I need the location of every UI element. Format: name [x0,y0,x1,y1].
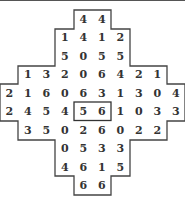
grid-cell: 4 [93,10,112,29]
grid-cell: 1 [93,29,112,48]
grid-cell: 2 [56,66,75,85]
grid-cell: 6 [93,66,112,85]
grid-cell: 0 [56,121,75,140]
grid-cell: 1 [111,103,130,122]
grid-cell: 3 [148,103,167,122]
grid-cell: 6 [74,158,93,177]
grid-cell: 6 [93,177,112,196]
grid-cell: 4 [56,158,75,177]
grid-cell: 5 [56,47,75,66]
grid-cell: 6 [93,103,112,122]
grid-cell: 2 [0,84,19,103]
grid-cell: 6 [93,121,112,140]
grid-cell: 1 [19,66,38,85]
grid-cell: 1 [93,158,112,177]
grid-cell: 1 [19,84,38,103]
grid-cell: 0 [111,121,130,140]
grid-cell: 3 [19,121,38,140]
grid-cell: 6 [74,177,93,196]
grid-cell: 0 [130,103,149,122]
grid-cell: 0 [56,140,75,159]
grid-cell: 6 [37,84,56,103]
grid-cell: 3 [93,140,112,159]
grid-cell: 5 [74,103,93,122]
grid-cell: 0 [56,84,75,103]
grid-cell: 4 [19,103,38,122]
grid-cell: 5 [111,47,130,66]
grid-cell: 4 [167,84,186,103]
grid-cell: 4 [74,10,93,29]
grid-cell: 2 [111,29,130,48]
grid-cell: 0 [74,47,93,66]
grid-cell: 5 [93,47,112,66]
grid-cell: 3 [93,84,112,103]
grid-cell: 6 [74,84,93,103]
grid-cell: 3 [111,140,130,159]
grid-cell: 2 [0,103,19,122]
grid-cell: 4 [74,29,93,48]
grid-cell: 5 [111,158,130,177]
grid-cell: 5 [37,121,56,140]
grid-cell: 2 [148,121,167,140]
grid-cell: 0 [74,66,93,85]
grid-cell: 5 [37,103,56,122]
grid-cell: 5 [74,140,93,159]
grid-cell: 1 [56,29,75,48]
grid-cell: 0 [148,84,167,103]
grid-cell: 2 [74,121,93,140]
grid-cell: 3 [167,103,186,122]
grid-cell: 3 [130,84,149,103]
grid-cell: 2 [130,66,149,85]
grid-cell: 2 [130,121,149,140]
grid-cell: 3 [37,66,56,85]
number-grid: 4414125055132064212160631304245456103335… [0,0,185,204]
grid-cell: 4 [111,66,130,85]
grid-cell: 4 [56,103,75,122]
grid-cell: 1 [148,66,167,85]
grid-cell: 1 [111,84,130,103]
